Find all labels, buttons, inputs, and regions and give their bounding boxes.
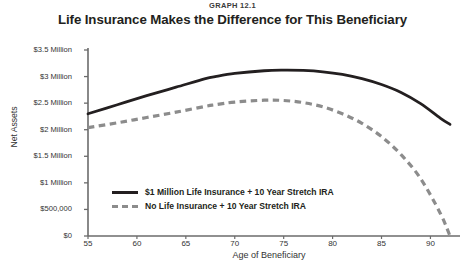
legend-label: $1 Million Life Insurance + 10 Year Stre…: [145, 186, 334, 200]
plot-area: [0, 0, 465, 267]
legend-label: No Life Insurance + 10 Year Stretch IRA: [145, 200, 306, 214]
legend-swatch-solid-icon: [112, 186, 138, 199]
legend-item: No Life Insurance + 10 Year Stretch IRA: [112, 200, 334, 214]
legend-swatch-dashed-icon: [112, 200, 138, 213]
legend-item: $1 Million Life Insurance + 10 Year Stre…: [112, 186, 334, 200]
chart-figure: GRAPH 12.1 Life Insurance Makes the Diff…: [0, 0, 465, 267]
chart-legend: $1 Million Life Insurance + 10 Year Stre…: [112, 186, 334, 213]
